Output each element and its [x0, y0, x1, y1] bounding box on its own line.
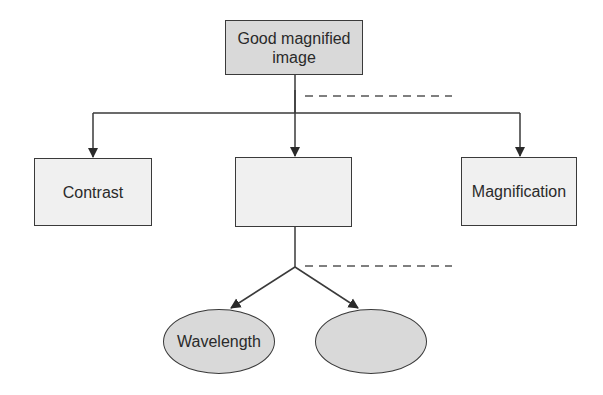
- root-label-line1: Good magnified: [238, 29, 351, 48]
- root-label-line2: image: [272, 48, 316, 67]
- contrast-label: Contrast: [63, 183, 123, 202]
- contrast-node: Contrast: [34, 158, 152, 226]
- wavelength-node: Wavelength: [163, 309, 275, 374]
- magnification-label: Magnification: [472, 182, 566, 201]
- arrow-to-blank-ellipse: [295, 267, 358, 308]
- wavelength-label: Wavelength: [177, 333, 261, 351]
- root-node: Good magnified image: [225, 20, 363, 75]
- magnification-node: Magnification: [461, 157, 577, 226]
- blank-ellipse-node: [315, 309, 427, 374]
- arrow-to-wavelength: [231, 267, 295, 308]
- blank-middle-node: [235, 157, 352, 227]
